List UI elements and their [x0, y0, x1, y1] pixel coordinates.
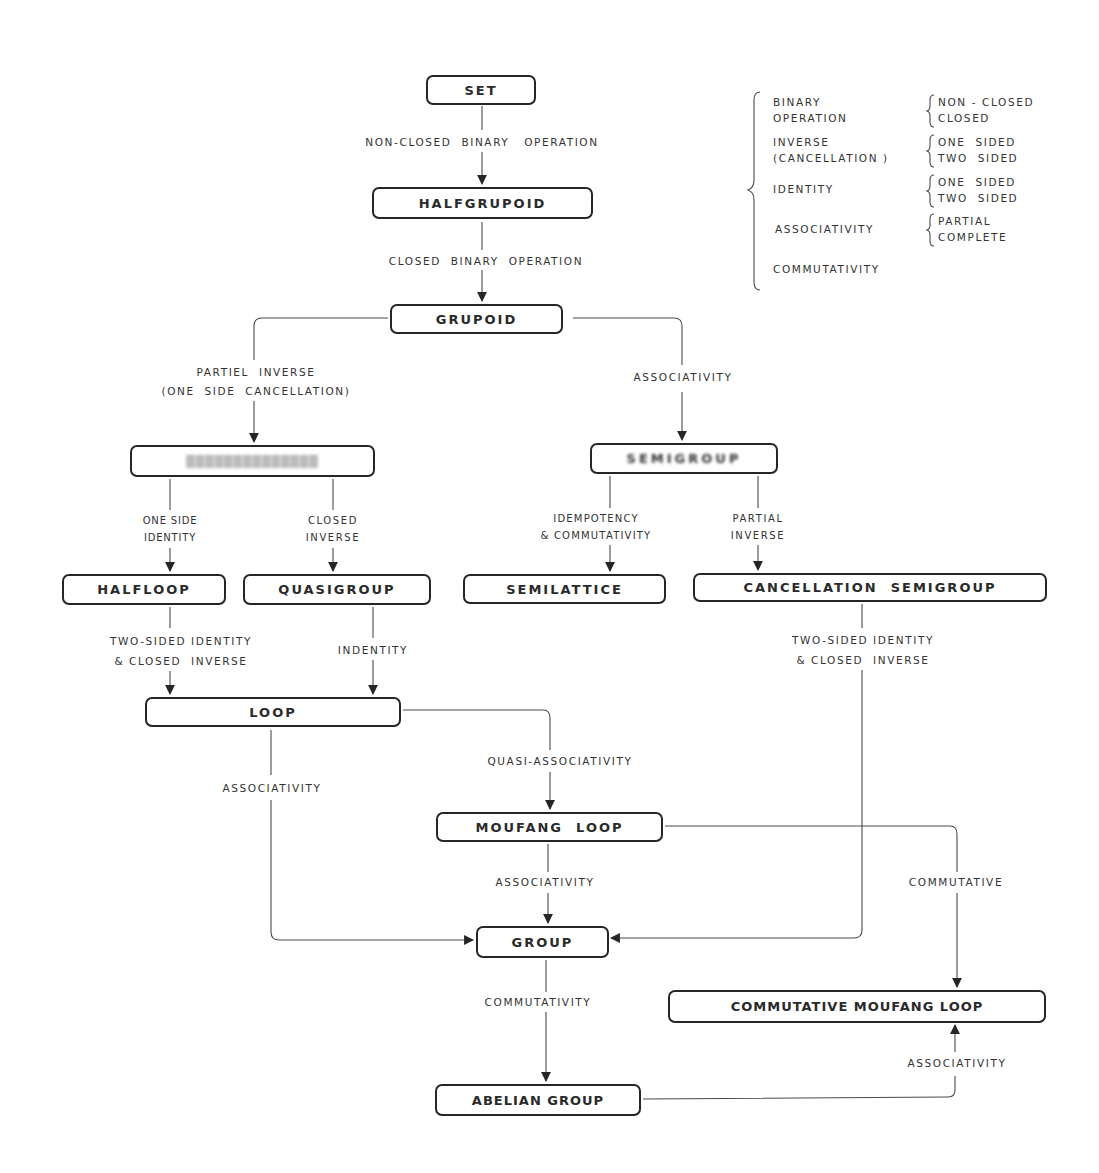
node-halfgrupoid: HALFGRUPOID — [372, 187, 593, 219]
node-semilattice-label: SEMILATTICE — [506, 582, 623, 597]
legend-options-binary-operation: NON - CLOSED CLOSED — [938, 94, 1034, 126]
edge-label-abelian-commutative: ASSOCIATIVITY — [886, 1055, 1028, 1072]
legend-property-inverse: INVERSE (CANCELLATION ) — [773, 134, 889, 166]
node-loop: LOOP — [145, 697, 401, 727]
edge-label-grupoid-semigroup: ASSOCIATIVITY — [612, 369, 754, 386]
node-moufang-loop: MOUFANG LOOP — [436, 812, 663, 842]
edge-label-moufang-group: ASSOCIATIVITY — [455, 874, 635, 891]
node-set: SET — [426, 75, 536, 105]
edge-label-group-abelian: COMMUTATIVITY — [455, 994, 621, 1011]
node-halfloop-label: HALFLOOP — [97, 582, 191, 597]
node-group-label: GROUP — [512, 935, 574, 950]
node-set-label: SET — [464, 83, 497, 98]
legend-options-identity: ONE SIDED TWO SIDED — [938, 174, 1018, 206]
edge-label-moufang-commutative: COMMUTATIVE — [886, 874, 1026, 891]
legend-property-associativity: ASSOCIATIVITY — [775, 221, 874, 237]
node-blurred-left: ██████████████ — [130, 445, 375, 477]
node-abelian-group-label: ABELIAN GROUP — [472, 1093, 604, 1108]
node-grupoid: GRUPOID — [390, 304, 563, 334]
node-blurred-left-label: ██████████████ — [186, 455, 318, 468]
node-semigroup-label: SEMIGROUP — [627, 451, 742, 466]
node-quasigroup-label: QUASIGROUP — [278, 582, 395, 597]
edge-label-grupoid-blurred: PARTIEL INVERSE (ONE SIDE CANCELLATION) — [125, 363, 387, 401]
node-quasigroup: QUASIGROUP — [243, 574, 431, 605]
node-semigroup: SEMIGROUP — [590, 443, 778, 474]
node-commutative-moufang-loop-label: COMMUTATIVE MOUFANG LOOP — [731, 999, 984, 1014]
edge-label-halfgrupoid-grupoid: CLOSED BINARY OPERATION — [360, 253, 612, 270]
edge-label-blurred-quasigroup: CLOSED INVERSE — [290, 512, 376, 546]
node-moufang-loop-label: MOUFANG LOOP — [475, 820, 623, 835]
edge-label-semigroup-semilattice: IDEMPOTENCY & COMMUTATIVITY — [508, 510, 684, 544]
legend-property-identity: IDENTITY — [773, 181, 834, 197]
legend-property-commutativity: COMMUTATIVITY — [773, 261, 880, 277]
legend-options-associativity: PARTIAL COMPLETE — [938, 213, 1007, 245]
edge-label-halfloop-loop: TWO-SIDED IDENTITY & CLOSED INVERSE — [72, 631, 290, 671]
node-loop-label: LOOP — [249, 705, 296, 720]
node-halfloop: HALFLOOP — [62, 574, 226, 605]
node-cancellation-semigroup-label: CANCELLATION SEMIGROUP — [743, 580, 996, 595]
node-abelian-group: ABELIAN GROUP — [435, 1084, 641, 1116]
edge-label-set-halfgrupoid: NON-CLOSED BINARY OPERATION — [332, 134, 632, 151]
node-grupoid-label: GRUPOID — [436, 312, 517, 327]
edge-label-semigroup-cancellation: PARTIAL INVERSE — [714, 510, 802, 544]
node-commutative-moufang-loop: COMMUTATIVE MOUFANG LOOP — [668, 990, 1046, 1023]
edge-label-cancellation-group: TWO-SIDED IDENTITY & CLOSED INVERSE — [760, 630, 966, 670]
legend-property-binary-operation: BINARY OPERATION — [773, 94, 848, 126]
node-halfgrupoid-label: HALFGRUPOID — [419, 196, 547, 211]
legend-options-inverse: ONE SIDED TWO SIDED — [938, 134, 1018, 166]
node-semilattice: SEMILATTICE — [463, 574, 666, 604]
edge-label-loop-moufang: QUASI-ASSOCIATIVITY — [440, 753, 680, 770]
edge-label-blurred-halfloop: ONE SIDE IDENTITY — [118, 512, 222, 546]
edge-label-quasigroup-loop: INDENTITY — [310, 642, 436, 659]
edge-label-loop-group: ASSOCIATIVITY — [190, 780, 354, 797]
node-group: GROUP — [476, 926, 609, 958]
node-cancellation-semigroup: CANCELLATION SEMIGROUP — [693, 573, 1047, 602]
